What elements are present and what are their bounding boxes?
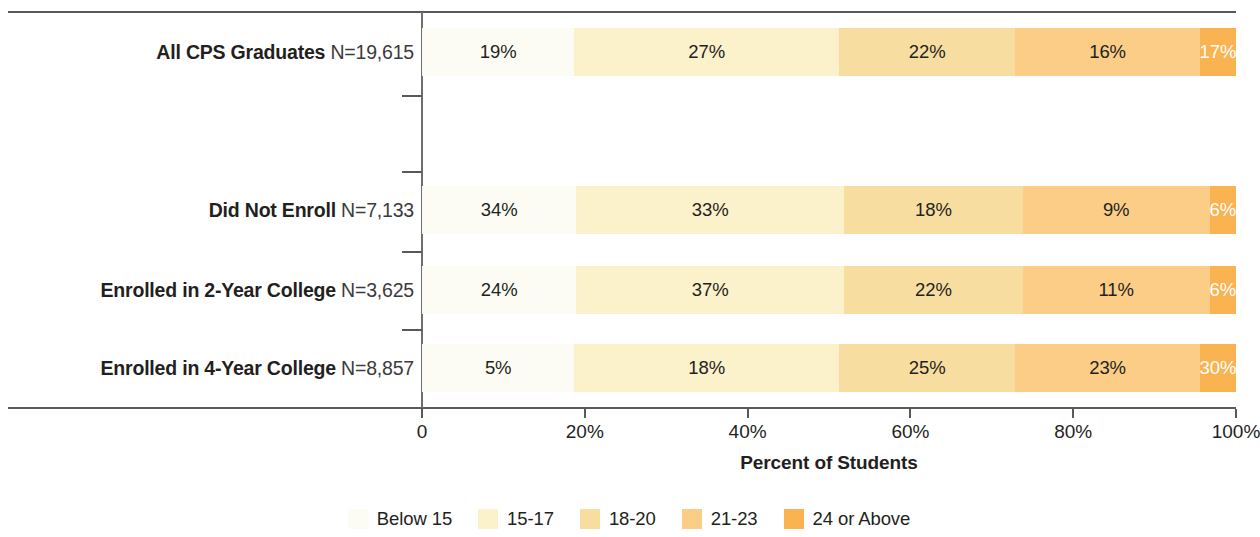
x-axis-tick-label: 100%	[1212, 421, 1260, 443]
chart-legend: Below 1515-1718-2021-2324 or Above	[0, 508, 1258, 530]
top-divider-rule	[8, 11, 1236, 13]
legend-item: 15-17	[478, 508, 554, 530]
chart-row: All CPS Graduates N=19,61519%27%22%16%17…	[0, 28, 1258, 76]
x-axis-line	[8, 407, 1236, 409]
y-axis-tick	[402, 171, 422, 173]
stacked-bar: 5%18%25%23%30%	[422, 344, 1236, 392]
bar-segment: 17%	[1200, 28, 1236, 76]
x-axis-tick-label: 20%	[566, 421, 604, 443]
legend-label: Below 15	[377, 508, 452, 530]
bar-segment: 11%	[1023, 266, 1210, 314]
legend-swatch	[784, 509, 804, 529]
row-label: All CPS Graduates N=19,615	[156, 28, 414, 76]
legend-swatch	[478, 509, 498, 529]
stacked-bar: 24%37%22%11%6%	[422, 266, 1236, 314]
x-axis-tick-label: 80%	[1054, 421, 1092, 443]
x-axis-tick	[584, 409, 586, 418]
bar-segment: 23%	[1015, 344, 1199, 392]
x-axis-tick	[909, 409, 911, 418]
legend-swatch	[348, 509, 368, 529]
row-sample-size: N=19,615	[325, 41, 414, 63]
bar-segment: 6%	[1210, 186, 1236, 234]
stacked-bar: 19%27%22%16%17%	[422, 28, 1236, 76]
bar-segment: 33%	[576, 186, 844, 234]
bar-segment: 19%	[422, 28, 574, 76]
chart-row: Enrolled in 2-Year College N=3,62524%37%…	[0, 266, 1258, 314]
bar-segment: 30%	[1200, 344, 1236, 392]
bar-segment: 22%	[839, 28, 1015, 76]
bar-segment: 25%	[839, 344, 1015, 392]
legend-item: 18-20	[580, 508, 656, 530]
legend-swatch	[682, 509, 702, 529]
x-axis-title: Percent of Students	[422, 452, 1236, 474]
bar-segment: 27%	[574, 28, 839, 76]
bar-segment: 37%	[576, 266, 844, 314]
bar-segment: 6%	[1210, 266, 1236, 314]
row-label: Did Not Enroll N=7,133	[209, 186, 414, 234]
legend-swatch	[580, 509, 600, 529]
stacked-bar: 34%33%18%9%6%	[422, 186, 1236, 234]
y-axis-tick	[402, 329, 422, 331]
bar-segment: 18%	[844, 186, 1023, 234]
row-label: Enrolled in 4-Year College N=8,857	[101, 344, 414, 392]
bar-segment: 24%	[422, 266, 576, 314]
legend-item: 24 or Above	[784, 508, 911, 530]
row-sample-size: N=8,857	[336, 357, 414, 379]
x-axis-tick	[421, 409, 423, 418]
x-axis-tick	[1072, 409, 1074, 418]
row-sample-size: N=3,625	[336, 279, 414, 301]
chart-row: Did Not Enroll N=7,13334%33%18%9%6%	[0, 186, 1258, 234]
row-label: Enrolled in 2-Year College N=3,625	[101, 266, 414, 314]
row-sample-size: N=7,133	[336, 199, 414, 221]
x-axis-tick-label: 60%	[891, 421, 929, 443]
x-axis-tick-label: 40%	[729, 421, 767, 443]
x-axis-tick	[747, 409, 749, 418]
x-axis-tick	[1235, 409, 1237, 418]
x-axis-tick-label: 0	[417, 421, 428, 443]
bar-segment: 16%	[1015, 28, 1199, 76]
legend-label: 18-20	[609, 508, 656, 530]
legend-label: 24 or Above	[813, 508, 911, 530]
row-category-name: Enrolled in 4-Year College	[101, 357, 336, 379]
y-axis-tick	[402, 95, 422, 97]
legend-item: 21-23	[682, 508, 758, 530]
y-axis-tick	[402, 251, 422, 253]
legend-item: Below 15	[348, 508, 452, 530]
row-category-name: All CPS Graduates	[156, 41, 325, 63]
bar-segment: 9%	[1023, 186, 1210, 234]
legend-label: 21-23	[711, 508, 758, 530]
bar-segment: 22%	[844, 266, 1023, 314]
row-category-name: Enrolled in 2-Year College	[101, 279, 336, 301]
legend-label: 15-17	[507, 508, 554, 530]
bar-segment: 18%	[574, 344, 839, 392]
row-category-name: Did Not Enroll	[209, 199, 336, 221]
bar-segment: 5%	[422, 344, 574, 392]
chart-row: Enrolled in 4-Year College N=8,8575%18%2…	[0, 344, 1258, 392]
bar-segment: 34%	[422, 186, 576, 234]
